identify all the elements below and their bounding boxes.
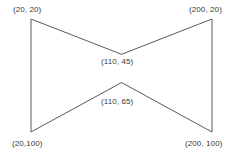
vertex-label-bottom-left: (20,100) [12, 139, 43, 149]
vertex-label-mid-lower: (110, 65) [101, 97, 133, 107]
vertex-label-top-right: (200, 20) [189, 5, 222, 15]
vertex-label-top-left: (20, 20) [13, 5, 41, 15]
bowtie-polygon-figure [0, 0, 240, 157]
bowtie-polygon-outline [31, 19, 212, 132]
vertex-label-mid-upper: (110, 45) [101, 57, 133, 67]
vertex-label-bottom-right: (200, 100) [185, 139, 222, 149]
